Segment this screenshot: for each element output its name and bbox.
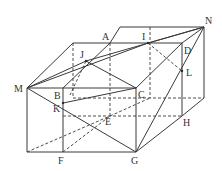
label-m: M [14,83,23,94]
label-d: D [184,45,191,56]
label-c: C [138,89,145,100]
label-n: N [205,15,212,26]
label-k: K [53,103,61,114]
label-a: A [102,31,110,42]
geometry-diagram: A J I N D L M B C K E H F G [0,0,222,171]
label-e: E [105,116,111,127]
label-h: H [183,117,190,128]
label-b: B [54,90,61,101]
label-i: I [142,31,145,42]
label-j: J [80,49,84,60]
label-f: F [58,155,64,166]
label-l: L [186,67,192,78]
label-g: G [131,155,138,166]
